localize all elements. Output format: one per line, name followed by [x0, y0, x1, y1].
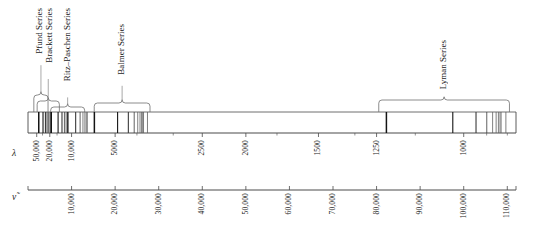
wavenumber-axis-symbol: ν̃	[12, 192, 16, 202]
series-label: Brackett Series	[45, 8, 54, 63]
wavenumber-tick-label: 20,000	[111, 193, 119, 214]
wavenumber-tick-label: 10,000	[68, 193, 76, 214]
wavenumber-tick-label: 100,000	[460, 193, 468, 218]
series-brace	[51, 104, 85, 112]
wavelength-tick-label: 1500	[314, 140, 322, 156]
wavelength-axis-symbol: λ	[12, 148, 16, 158]
wavelength-tick-label: 10,000	[68, 140, 76, 161]
series-brace	[379, 97, 510, 112]
wavelength-tick-label: 50,000	[33, 140, 41, 161]
series-label: Balmer Series	[117, 24, 126, 75]
series-label: Pfund Series	[35, 8, 44, 54]
series-label: Lyman Series	[439, 40, 448, 89]
hydrogen-spectrum-figure: Pfund SeriesBrackett SeriesRitz–Paschen …	[0, 0, 541, 230]
series-brace	[34, 92, 48, 112]
series-brace	[94, 100, 150, 112]
wavenumber-tick-label: 70,000	[329, 193, 337, 214]
wavelength-tick-label: 5000	[111, 140, 119, 156]
series-label: Ritz–Paschen Series	[63, 8, 72, 81]
wavenumber-tick-label: 110,000	[503, 193, 511, 218]
wavelength-tick-label: 2500	[198, 140, 206, 156]
wavenumber-tick-label: 80,000	[373, 193, 381, 214]
wavelength-tick-label: 20,000	[46, 140, 54, 161]
wavenumber-tick-label: 50,000	[242, 193, 250, 214]
wavenumber-tick-label: 40,000	[198, 193, 206, 214]
wavelength-tick-label: 1250	[373, 140, 381, 156]
wavenumber-tick-label: 90,000	[416, 193, 424, 214]
wavelength-tick-label: 2000	[242, 140, 250, 156]
wavelength-tick-label: 1000	[460, 140, 468, 156]
wavenumber-tick-label: 30,000	[155, 193, 163, 214]
wavenumber-tick-label: 60,000	[285, 193, 293, 214]
